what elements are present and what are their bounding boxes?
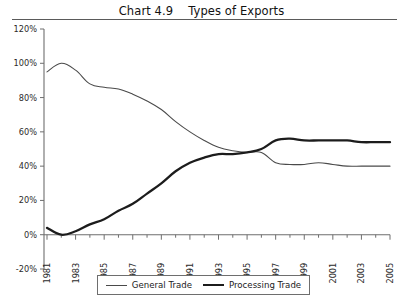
x-tick-label: 2001 xyxy=(328,263,338,284)
legend-label-general-trade: General Trade xyxy=(132,280,192,290)
legend-label-processing-trade: Processing Trade xyxy=(229,280,301,290)
legend-swatch-general-trade xyxy=(106,285,127,286)
y-tick-label: 40% xyxy=(19,161,37,171)
y-tick-label: 100% xyxy=(14,58,38,68)
legend-item-processing-trade: Processing Trade xyxy=(203,280,301,290)
x-tick-label: 2005 xyxy=(385,263,395,284)
y-tick-label: 80% xyxy=(19,93,37,103)
chart-figure: Chart 4.9 Types of Exports -20%0%20%40%6… xyxy=(0,0,403,308)
legend-item-general-trade: General Trade xyxy=(106,280,192,290)
y-tick-label: 120% xyxy=(14,24,38,34)
x-tick-label: 1981 xyxy=(42,263,52,284)
series-line-general-trade xyxy=(47,63,390,166)
y-tick-label: 20% xyxy=(19,195,37,205)
series-line-processing-trade xyxy=(47,139,390,235)
plot-area: -20%0%20%40%60%80%100%120%19811983198519… xyxy=(0,0,403,308)
y-tick-label: -20% xyxy=(16,264,37,274)
y-tick-label: 0% xyxy=(24,230,37,240)
chart-legend: General Trade Processing Trade xyxy=(97,275,310,295)
y-tick-label: 60% xyxy=(19,127,37,137)
x-tick-label: 2003 xyxy=(356,263,366,284)
x-tick-label: 1983 xyxy=(71,263,81,284)
legend-swatch-processing-trade xyxy=(203,284,224,286)
